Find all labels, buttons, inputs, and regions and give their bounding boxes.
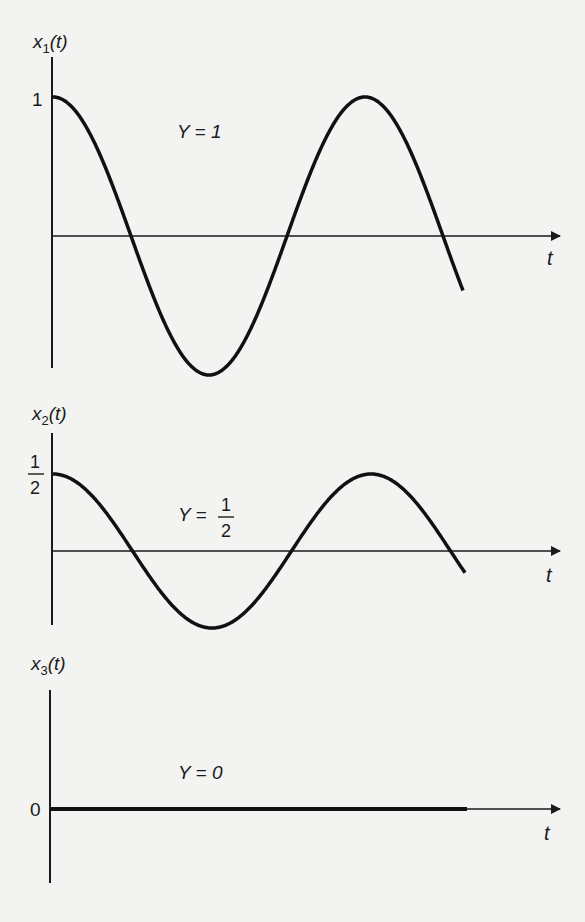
panel-x2: x2(t) 1 2 Y = 1 2 t <box>28 403 560 628</box>
annotation-x2: Y = 1 2 <box>178 495 234 541</box>
panel-x3: x3(t) 0 Y = 0 t <box>30 653 560 883</box>
ytick-x3: 0 <box>30 799 41 820</box>
ylabel-x2: x2(t) <box>31 403 67 428</box>
annotation-x3: Y = 0 <box>178 762 223 783</box>
ytick-x1: 1 <box>32 89 43 110</box>
xlabel-x1: t <box>547 247 554 269</box>
ylabel-x1: x1(t) <box>32 31 68 56</box>
xlabel-x2: t <box>546 564 553 586</box>
panel-x1: x1(t) 1 Y = 1 t <box>32 31 560 375</box>
svg-text:1: 1 <box>221 495 231 515</box>
xlabel-x3: t <box>544 822 551 844</box>
chart-canvas: x1(t) 1 Y = 1 t x2(t) 1 2 Y = 1 2 t x3(t… <box>0 0 585 922</box>
svg-text:Y =: Y = <box>178 504 207 525</box>
svg-text:2: 2 <box>221 521 231 541</box>
annotation-x1: Y = 1 <box>177 121 222 142</box>
svg-text:2: 2 <box>30 478 40 498</box>
ytick-x2: 1 2 <box>28 452 44 498</box>
ylabel-x3: x3(t) <box>30 653 66 678</box>
svg-text:1: 1 <box>30 452 40 472</box>
